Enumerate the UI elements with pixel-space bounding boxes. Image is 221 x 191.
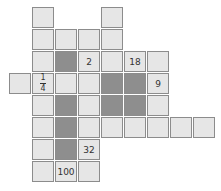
empty-cell[interactable]	[78, 29, 100, 50]
empty-cell[interactable]	[78, 117, 100, 138]
puzzle-grid: 21814932100	[0, 0, 221, 191]
empty-cell[interactable]	[101, 117, 123, 138]
shaded-cell[interactable]	[55, 117, 77, 138]
fraction-denominator: 4	[40, 85, 45, 93]
clue-cell[interactable]: 9	[147, 73, 169, 94]
empty-cell[interactable]	[32, 7, 54, 28]
shaded-cell[interactable]	[124, 95, 146, 116]
cell-value: 32	[83, 145, 94, 155]
shaded-cell[interactable]	[101, 73, 123, 94]
empty-cell[interactable]	[78, 73, 100, 94]
empty-cell[interactable]	[170, 117, 192, 138]
fraction-numerator: 1	[40, 74, 45, 82]
empty-cell[interactable]	[78, 95, 100, 116]
empty-cell[interactable]	[32, 161, 54, 182]
cell-value: 18	[129, 57, 140, 67]
shaded-cell[interactable]	[55, 51, 77, 72]
empty-cell[interactable]	[32, 117, 54, 138]
empty-cell[interactable]	[32, 51, 54, 72]
cell-value: 100	[57, 167, 74, 177]
empty-cell[interactable]	[32, 29, 54, 50]
empty-cell[interactable]	[147, 117, 169, 138]
shaded-cell[interactable]	[55, 139, 77, 160]
empty-cell[interactable]	[9, 73, 31, 94]
empty-cell[interactable]	[78, 161, 100, 182]
cell-value: 2	[86, 57, 92, 67]
empty-cell[interactable]	[124, 117, 146, 138]
empty-cell[interactable]	[193, 117, 215, 138]
shaded-cell[interactable]	[101, 95, 123, 116]
empty-cell[interactable]	[147, 51, 169, 72]
shaded-cell[interactable]	[55, 95, 77, 116]
clue-cell[interactable]: 100	[55, 161, 77, 182]
clue-cell[interactable]: 2	[78, 51, 100, 72]
clue-cell[interactable]: 18	[124, 51, 146, 72]
empty-cell[interactable]	[147, 95, 169, 116]
empty-cell[interactable]	[32, 95, 54, 116]
cell-value: 9	[155, 79, 161, 89]
shaded-cell[interactable]	[124, 73, 146, 94]
empty-cell[interactable]	[55, 73, 77, 94]
empty-cell[interactable]	[101, 51, 123, 72]
empty-cell[interactable]	[32, 139, 54, 160]
empty-cell[interactable]	[101, 7, 123, 28]
empty-cell[interactable]	[55, 29, 77, 50]
empty-cell[interactable]	[101, 29, 123, 50]
fraction-value: 14	[40, 74, 46, 93]
clue-cell[interactable]: 14	[32, 73, 54, 94]
clue-cell[interactable]: 32	[78, 139, 100, 160]
